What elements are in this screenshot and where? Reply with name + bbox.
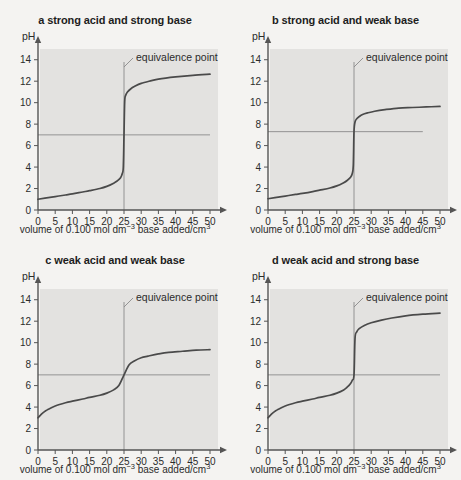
y-tick-label: 6 xyxy=(25,140,31,151)
y-tick-label: 12 xyxy=(250,316,262,327)
plot-background xyxy=(40,289,218,450)
y-axis-arrow xyxy=(265,36,271,43)
panel-c: c weak acid and weak base pH equivalence… xyxy=(0,240,230,480)
y-tick-label: 4 xyxy=(25,402,31,413)
xlabel-exponent: −3 xyxy=(126,462,135,471)
y-tick-label: 12 xyxy=(20,316,32,327)
xlabel-tail-exponent: 3 xyxy=(206,462,210,471)
y-tick-label: 10 xyxy=(250,97,262,108)
xlabel-tail-exponent: 3 xyxy=(437,222,441,231)
y-tick-label: 14 xyxy=(250,294,262,305)
plot-background xyxy=(40,49,218,210)
panel-c-x-axis-label: volume of 0.100 mol dm−3 base added/cm3 xyxy=(0,462,230,475)
xlabel-main: volume of 0.100 mol dm xyxy=(250,464,357,475)
y-tick-label: 14 xyxy=(20,54,32,65)
panel-d: d weak acid and strong base pH equivalen… xyxy=(230,240,461,480)
y-tick-label: 4 xyxy=(255,402,261,413)
plot-background xyxy=(270,49,448,210)
panel-b-x-axis-label: volume of 0.100 mol dm−3 base added/cm3 xyxy=(230,222,461,235)
y-tick-label: 10 xyxy=(20,97,32,108)
xlabel-main: volume of 0.100 mol dm xyxy=(20,464,127,475)
panel-b-svg: equivalence point02468101214051015202530… xyxy=(230,0,461,225)
y-tick-label: 0 xyxy=(255,205,261,216)
y-axis-arrow xyxy=(35,276,41,283)
panel-a-x-axis-label: volume of 0.100 mol dm−3 base added/cm3 xyxy=(0,222,230,235)
panel-b-plot: equivalence point02468101214051015202530… xyxy=(230,0,461,225)
y-tick-label: 12 xyxy=(250,76,262,87)
xlabel-main: volume of 0.100 mol dm xyxy=(250,224,357,235)
titration-curves-figure: a strong acid and strong base pH equival… xyxy=(0,0,461,480)
y-tick-label: 8 xyxy=(255,119,261,130)
xlabel-tail: base added/cm xyxy=(135,464,206,475)
xlabel-exponent: −3 xyxy=(126,222,135,231)
panel-b: b strong acid and weak base pH equivalen… xyxy=(230,0,461,240)
y-tick-label: 8 xyxy=(255,359,261,370)
y-tick-label: 8 xyxy=(25,119,31,130)
y-tick-label: 0 xyxy=(25,445,31,456)
plot-background xyxy=(270,289,448,450)
xlabel-tail-exponent: 3 xyxy=(206,222,210,231)
xlabel-tail: base added/cm xyxy=(365,464,436,475)
y-tick-label: 6 xyxy=(255,380,261,391)
x-axis-arrow xyxy=(450,207,457,213)
y-axis-arrow xyxy=(265,276,271,283)
xlabel-tail-exponent: 3 xyxy=(437,462,441,471)
panel-d-svg: equivalence point02468101214051015202530… xyxy=(230,240,461,465)
panel-a: a strong acid and strong base pH equival… xyxy=(0,0,230,240)
y-tick-label: 10 xyxy=(250,337,262,348)
y-tick-label: 6 xyxy=(25,380,31,391)
x-axis-arrow xyxy=(220,207,227,213)
equivalence-point-annotation: equivalence point xyxy=(136,291,218,303)
xlabel-tail: base added/cm xyxy=(135,224,206,235)
xlabel-main: volume of 0.100 mol dm xyxy=(20,224,127,235)
equivalence-point-annotation: equivalence point xyxy=(366,291,448,303)
panel-d-plot: equivalence point02468101214051015202530… xyxy=(230,240,461,465)
panel-c-svg: equivalence point02468101214051015202530… xyxy=(0,240,231,465)
y-tick-label: 10 xyxy=(20,337,32,348)
y-tick-label: 8 xyxy=(25,359,31,370)
panel-a-plot: equivalence point02468101214051015202530… xyxy=(0,0,231,225)
panel-a-svg: equivalence point02468101214051015202530… xyxy=(0,0,231,225)
y-tick-label: 14 xyxy=(20,294,32,305)
y-tick-label: 2 xyxy=(255,183,261,194)
y-tick-label: 2 xyxy=(255,423,261,434)
y-tick-label: 2 xyxy=(25,183,31,194)
y-tick-label: 6 xyxy=(255,140,261,151)
y-tick-label: 14 xyxy=(250,54,262,65)
x-axis-arrow xyxy=(220,447,227,453)
panel-d-x-axis-label: volume of 0.100 mol dm−3 base added/cm3 xyxy=(230,462,461,475)
equivalence-point-annotation: equivalence point xyxy=(136,51,218,63)
y-axis-arrow xyxy=(35,36,41,43)
equivalence-point-annotation: equivalence point xyxy=(366,51,448,63)
y-tick-label: 0 xyxy=(25,205,31,216)
y-tick-label: 4 xyxy=(255,162,261,173)
y-tick-label: 0 xyxy=(255,445,261,456)
xlabel-tail: base added/cm xyxy=(365,224,436,235)
y-tick-label: 2 xyxy=(25,423,31,434)
y-tick-label: 12 xyxy=(20,76,32,87)
panel-c-plot: equivalence point02468101214051015202530… xyxy=(0,240,231,465)
x-axis-arrow xyxy=(450,447,457,453)
y-tick-label: 4 xyxy=(25,162,31,173)
